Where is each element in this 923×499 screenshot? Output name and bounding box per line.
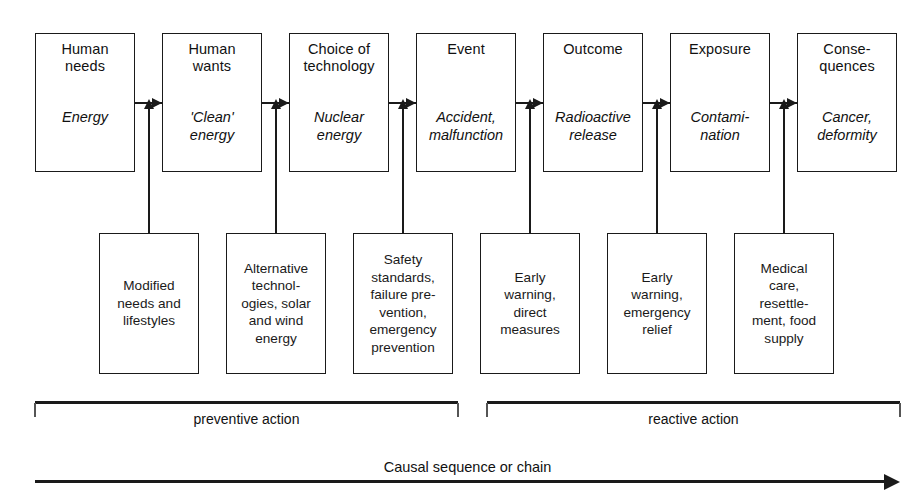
bracket-label-2: reactive action [487,411,900,427]
connector-arrowhead-up-6 [779,99,789,109]
stage-example: Nuclear energy [290,108,388,144]
bracket-line-1 [35,401,458,404]
connector-vertical-1 [148,107,149,233]
stage-example: Radioactive release [544,108,642,144]
stage-box-7[interactable]: Conse- quencesCancer, deformity [797,33,897,172]
stage-box-5[interactable]: OutcomeRadioactive release [543,33,643,172]
stage-example: Accident, malfunction [417,108,515,144]
stage-box-4[interactable]: EventAccident, malfunction [416,33,516,172]
stage-title: Event [447,41,485,58]
action-box-3[interactable]: Safety standards, failure pre- vention, … [353,233,453,374]
action-text: Safety standards, failure pre- vention, … [366,251,439,356]
connector-arrowhead-up-2 [271,99,281,109]
causal-axis-arrowhead [884,474,900,490]
action-text: Early warning, direct measures [497,269,563,339]
action-text: Early warning, emergency relief [620,269,693,339]
stage-title: Conse- quences [819,41,875,75]
stage-box-2[interactable]: Human wants'Clean' energy [162,33,262,172]
connector-vertical-2 [275,107,276,233]
causal-axis-label: Causal sequence or chain [35,459,900,475]
stage-box-3[interactable]: Choice of technologyNuclear energy [289,33,389,172]
stage-example: 'Clean' energy [163,108,261,144]
stage-title: Human wants [188,41,235,75]
connector-arrowhead-up-5 [652,99,662,109]
stage-title: Human needs [61,41,108,75]
action-text: Medical care, resettle- ment, food suppl… [749,260,819,348]
connector-vertical-5 [656,107,657,233]
action-box-5[interactable]: Early warning, emergency relief [607,233,707,374]
connector-arrowhead-up-4 [525,99,535,109]
stage-example: Energy [36,108,134,126]
stage-box-6[interactable]: ExposureContami- nation [670,33,770,172]
causal-chain-diagram: Human needsEnergyHuman wants'Clean' ener… [0,0,923,499]
stage-title: Exposure [689,41,751,58]
stage-box-1[interactable]: Human needsEnergy [35,33,135,172]
connector-arrowhead-up-3 [398,99,408,109]
connector-vertical-6 [783,107,784,233]
connector-vertical-4 [529,107,530,233]
stage-example: Cancer, deformity [798,108,896,144]
stage-example: Contami- nation [671,108,769,144]
bracket-label-1: preventive action [35,411,458,427]
action-box-2[interactable]: Alternative technol- ogies, solar and wi… [226,233,326,374]
bracket-line-2 [487,401,900,404]
action-box-6[interactable]: Medical care, resettle- ment, food suppl… [734,233,834,374]
connector-vertical-3 [402,107,403,233]
causal-axis-line [35,480,886,483]
action-box-4[interactable]: Early warning, direct measures [480,233,580,374]
connector-arrowhead-up-1 [144,99,154,109]
stage-title: Choice of technology [303,41,374,75]
action-text: Modified needs and lifestyles [114,277,184,330]
stage-title: Outcome [563,41,623,58]
action-box-1[interactable]: Modified needs and lifestyles [99,233,199,374]
action-text: Alternative technol- ogies, solar and wi… [238,260,314,348]
